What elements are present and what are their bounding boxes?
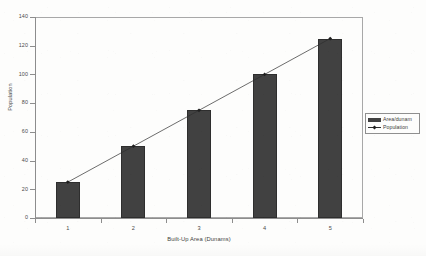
legend-item-population: Population (368, 124, 417, 132)
x-axis-tick (35, 219, 36, 223)
legend-label: Population (383, 125, 408, 130)
legend-item-area-dunam: Area/dunam (368, 116, 417, 124)
bar-swatch-icon (368, 118, 381, 122)
y-axis-tick (30, 161, 36, 162)
x-axis-title: Built-Up Area (Dunams) (35, 236, 363, 242)
y-axis-tick (30, 17, 36, 18)
y-axis-tick (30, 74, 36, 75)
y-axis-tick-label: 100 (19, 72, 28, 77)
y-axis-title: Population (7, 71, 13, 123)
x-axis-tick (101, 219, 102, 223)
y-axis-tick (30, 46, 36, 47)
y-axis-tick-label: 40 (22, 158, 28, 163)
line-marker-icon (368, 126, 381, 130)
data-point-marker (263, 73, 267, 77)
data-point-marker (132, 144, 136, 148)
y-axis-tick (30, 103, 36, 104)
x-axis-tick-label: 3 (189, 226, 209, 232)
y-axis-tick-label: 20 (22, 187, 28, 192)
x-axis-tick-label: 1 (58, 226, 78, 232)
y-axis-tick-label: 0 (25, 215, 28, 220)
y-axis-tick-label: 120 (19, 43, 28, 48)
legend-label: Area/dunam (383, 117, 412, 122)
x-axis-tick (166, 219, 167, 223)
x-axis-tick-label: 4 (255, 226, 275, 232)
chart-screenshot: 020406080100120140 Population Built-Up A… (0, 0, 426, 256)
y-axis-tick-label: 80 (22, 100, 28, 105)
data-point-marker (197, 108, 201, 112)
y-axis-tick (30, 132, 36, 133)
y-axis-tick-labels: 020406080100120140 (0, 0, 28, 256)
chart-legend: Area/dunam Population (365, 113, 420, 134)
line-series-population (35, 17, 363, 218)
y-axis-tick (30, 218, 36, 219)
x-axis-line (35, 218, 363, 219)
y-axis-tick-label: 60 (22, 129, 28, 134)
x-axis-tick-label: 5 (320, 226, 340, 232)
data-point-marker (66, 180, 70, 184)
population-vs-builtup-area-chart: 020406080100120140 Population Built-Up A… (0, 0, 426, 256)
y-axis-tick (30, 189, 36, 190)
x-axis-tick (297, 219, 298, 223)
data-point-marker (328, 37, 332, 41)
x-axis-tick-label: 2 (123, 226, 143, 232)
x-axis-tick (232, 219, 233, 223)
x-axis-tick (363, 219, 364, 223)
y-axis-tick-label: 140 (19, 14, 28, 19)
